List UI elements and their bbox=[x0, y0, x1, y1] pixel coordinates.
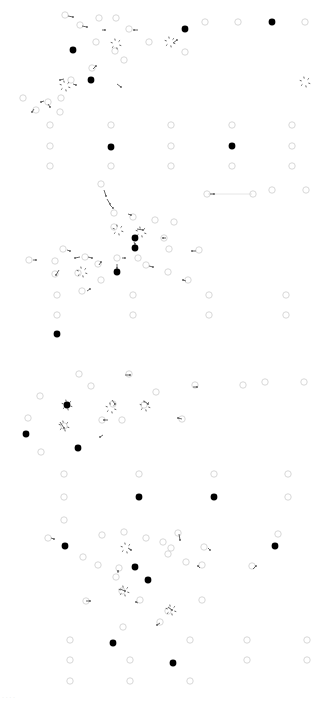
arrow-tick bbox=[85, 273, 87, 274]
hollow-node bbox=[58, 95, 64, 101]
hollow-node bbox=[165, 269, 171, 275]
arrow-tick bbox=[136, 230, 138, 231]
hollow-node bbox=[76, 371, 82, 377]
arrow-tick bbox=[113, 228, 115, 229]
arrow-tick bbox=[166, 44, 167, 45]
arrow-tick bbox=[60, 428, 61, 429]
hollow-node bbox=[121, 57, 127, 63]
arrow-head bbox=[209, 549, 211, 551]
hollow-node bbox=[67, 637, 73, 643]
arrow-head bbox=[103, 419, 105, 421]
hollow-node bbox=[229, 163, 235, 169]
hollow-node bbox=[269, 187, 275, 193]
arrow-head bbox=[191, 250, 193, 252]
arrow-tick bbox=[107, 410, 108, 411]
arrow-cluster-icon bbox=[121, 543, 132, 554]
arrow-icon bbox=[59, 79, 64, 81]
hollow-node bbox=[61, 517, 67, 523]
filled-node bbox=[75, 445, 82, 452]
hollow-node bbox=[301, 379, 307, 385]
hollow-node bbox=[187, 678, 193, 684]
hollow-node bbox=[25, 415, 31, 421]
filled-node bbox=[114, 269, 121, 276]
hollow-node bbox=[235, 19, 241, 25]
hollow-node bbox=[175, 530, 181, 536]
arrow-head bbox=[130, 214, 132, 216]
arrow-head bbox=[74, 257, 76, 259]
hollow-node bbox=[152, 217, 158, 223]
hollow-node bbox=[82, 254, 88, 260]
hollow-node bbox=[240, 382, 246, 388]
arrow-icon bbox=[99, 435, 103, 438]
arrow-head bbox=[105, 195, 107, 197]
arrow-head bbox=[197, 565, 199, 567]
hollow-node bbox=[153, 389, 159, 395]
hollow-node bbox=[54, 312, 60, 318]
arrow-icon bbox=[128, 548, 132, 551]
filled-node bbox=[132, 245, 139, 252]
hollow-node bbox=[168, 122, 174, 128]
arrow-tick bbox=[301, 84, 302, 85]
arrow-cluster-layer bbox=[59, 37, 311, 616]
hollow-node bbox=[26, 257, 32, 263]
arrow-tick bbox=[62, 403, 64, 404]
arrow-head bbox=[89, 600, 91, 602]
arrow-tick bbox=[59, 424, 61, 425]
arrow-icon bbox=[137, 229, 144, 231]
filled-node bbox=[211, 494, 218, 501]
arrow-icon bbox=[73, 84, 77, 86]
hollow-node bbox=[202, 19, 208, 25]
arrow-icon bbox=[102, 29, 106, 31]
hollow-node bbox=[183, 559, 189, 565]
arrow-tick bbox=[121, 231, 123, 232]
arrow-icon bbox=[208, 548, 211, 551]
hollow-node bbox=[62, 12, 68, 18]
arrow-icon bbox=[104, 190, 107, 197]
hollow-node bbox=[168, 163, 174, 169]
arrow-head bbox=[104, 29, 106, 31]
arrow-tick bbox=[148, 407, 150, 408]
arrow-tick bbox=[114, 232, 115, 233]
arrow-tick bbox=[173, 38, 174, 39]
hollow-node bbox=[127, 657, 133, 663]
arrow-tick bbox=[60, 84, 62, 85]
hollow-node bbox=[182, 49, 188, 55]
filled-node bbox=[136, 494, 143, 501]
hollow-node bbox=[206, 312, 212, 318]
caption-text: · · · · bbox=[2, 694, 15, 700]
arrow-head bbox=[69, 250, 71, 252]
hollow-node bbox=[289, 143, 295, 149]
arrow-icon bbox=[110, 205, 114, 209]
arrow-head bbox=[86, 26, 88, 28]
arrow-icon bbox=[74, 257, 80, 259]
arrow-tick bbox=[112, 46, 113, 47]
arrow-tick bbox=[68, 82, 69, 83]
arrow-head bbox=[124, 590, 126, 592]
hollow-node bbox=[95, 562, 101, 568]
arrow-tick bbox=[127, 592, 129, 593]
arrow-head bbox=[49, 106, 51, 108]
hollow-node bbox=[93, 39, 99, 45]
filled-node bbox=[170, 660, 177, 667]
hollow-node bbox=[199, 597, 205, 603]
arrow-head bbox=[75, 84, 77, 86]
hollow-node bbox=[121, 529, 127, 535]
hollow-node bbox=[52, 258, 58, 264]
arrow-head bbox=[176, 39, 178, 41]
hollow-node bbox=[108, 122, 114, 128]
arrow-tick bbox=[144, 233, 146, 234]
hollow-node bbox=[285, 494, 291, 500]
hollow-node bbox=[262, 379, 268, 385]
hollow-node bbox=[111, 224, 117, 230]
hollow-node bbox=[96, 15, 102, 21]
filled-node bbox=[132, 235, 139, 242]
hollow-node bbox=[168, 545, 174, 551]
arrow-head bbox=[196, 386, 198, 388]
arrow-tick bbox=[166, 608, 168, 609]
arrow-head bbox=[147, 403, 149, 405]
arrow-icon bbox=[68, 16, 74, 18]
arrow-head bbox=[35, 259, 37, 261]
arrow-icon bbox=[51, 538, 55, 540]
arrow-tick bbox=[111, 42, 113, 43]
arrow-head bbox=[99, 436, 101, 438]
